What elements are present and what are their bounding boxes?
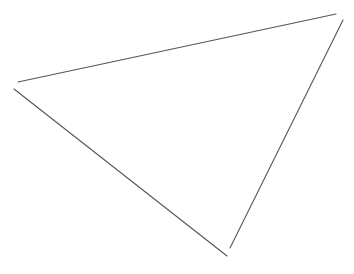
right-edge xyxy=(230,20,343,248)
open-triangle-diagram xyxy=(0,0,354,274)
left-edge xyxy=(14,89,227,256)
top-edge xyxy=(18,14,336,82)
